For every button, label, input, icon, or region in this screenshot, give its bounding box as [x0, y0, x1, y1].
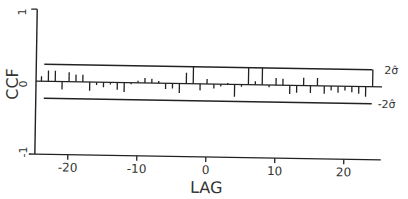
x-tick-label: -20 [58, 161, 78, 175]
lower-bound-line [44, 98, 372, 103]
x-tick-label: 0 [202, 163, 210, 177]
x-tick-label: -10 [127, 162, 147, 176]
upper-bound-label: 2σ̂ [384, 64, 398, 77]
x-tick-label: 10 [267, 164, 283, 178]
upper-bound-line [44, 64, 372, 69]
y-axis-label: CCF [3, 68, 22, 100]
x-tick-label: 20 [336, 165, 352, 179]
ccf-chart: -20-1001020 2σ̂ -2σ̂ LAG 1 0 -1 CCF [0, 0, 408, 199]
zero-line [36, 81, 382, 87]
lower-bound-label: -2σ̂ [378, 98, 396, 111]
x-axis-label: LAG [190, 178, 223, 198]
x-axis [35, 154, 381, 160]
y-tick-label-bottom: -1 [17, 147, 30, 158]
y-tick-label-top: 1 [16, 9, 29, 16]
